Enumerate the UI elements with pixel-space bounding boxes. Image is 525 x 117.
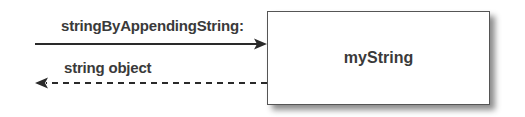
message-label: stringByAppendingString:: [61, 17, 244, 34]
message-arrow: [35, 39, 267, 50]
return-label: string object: [64, 59, 151, 76]
object-name: myString: [344, 49, 413, 67]
object-box: myString: [267, 11, 490, 105]
return-arrow: [35, 78, 267, 89]
message-diagram: stringByAppendingString: string object m…: [0, 0, 525, 117]
